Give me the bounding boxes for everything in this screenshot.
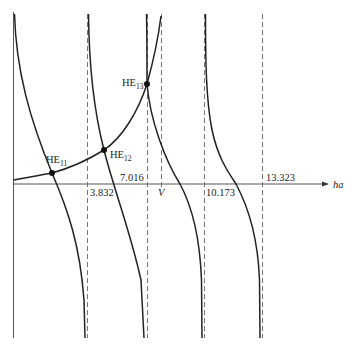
tick-label-7016: 7.016 xyxy=(120,172,144,183)
v-label: V xyxy=(158,187,166,198)
tick-label-10173: 10.173 xyxy=(206,187,235,198)
he13-point xyxy=(144,81,150,87)
he12-label: HE12 xyxy=(110,149,132,163)
he11-point xyxy=(49,170,55,176)
tick-label-3832: 3.832 xyxy=(90,187,114,198)
mode-chart: HE11 HE12 HE13 3.832 7.016 V 10.173 13.3… xyxy=(0,0,353,348)
tick-label-13323: 13.323 xyxy=(266,172,295,183)
x-axis-label: ha xyxy=(333,179,344,190)
he13-label: HE13 xyxy=(122,77,144,91)
he12-point xyxy=(101,147,107,153)
